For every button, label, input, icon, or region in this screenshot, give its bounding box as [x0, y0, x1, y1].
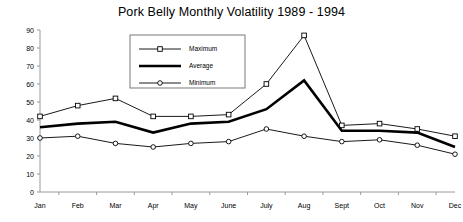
series-marker — [226, 139, 231, 144]
series-marker — [189, 114, 194, 119]
series-marker — [113, 96, 118, 101]
legend-label: Maximum — [189, 45, 217, 52]
x-axis: JanFebMarAprMayJuneJulyAugSeptOctNovDec — [34, 192, 461, 210]
series-line — [40, 129, 455, 154]
data-series — [40, 80, 455, 147]
x-axis-tick-label: June — [221, 202, 236, 209]
legend-label: Average — [189, 62, 213, 70]
series-marker — [113, 141, 118, 146]
y-axis: 0102030405060708090 — [26, 27, 40, 196]
legend-marker — [158, 47, 163, 52]
x-axis-tick-label: Aug — [298, 202, 311, 210]
series-marker — [38, 136, 43, 141]
series-marker — [415, 127, 420, 132]
y-axis-tick-label: 70 — [26, 63, 34, 70]
series-marker — [226, 112, 231, 117]
x-axis-tick-label: Jan — [34, 202, 45, 209]
series-marker — [453, 134, 458, 139]
y-axis-tick-label: 30 — [26, 135, 34, 142]
x-axis-tick-label: Feb — [72, 202, 84, 209]
chart-legend: MaximumAverageMinimum — [130, 35, 245, 88]
x-axis-tick-label: July — [260, 202, 273, 210]
x-axis-tick-label: Dec — [449, 202, 462, 209]
series-marker — [302, 33, 307, 38]
legend-label: Minimum — [189, 79, 215, 86]
y-axis-tick-label: 10 — [26, 171, 34, 178]
x-axis-tick-label: May — [184, 202, 198, 210]
y-axis-tick-label: 80 — [26, 45, 34, 52]
series-marker — [75, 134, 80, 139]
y-axis-tick-label: 0 — [30, 189, 34, 196]
y-axis-tick-label: 60 — [26, 81, 34, 88]
series-marker — [377, 138, 382, 143]
legend-marker — [158, 81, 163, 86]
y-axis-ticks: 0102030405060708090 — [26, 27, 40, 196]
data-series-group — [38, 33, 458, 156]
series-marker — [38, 114, 43, 119]
x-axis-tick-label: Sept — [335, 202, 349, 210]
series-marker — [453, 152, 458, 157]
x-axis-tick-label: Mar — [109, 202, 122, 209]
series-marker — [264, 82, 269, 87]
legend-box — [130, 35, 245, 88]
series-marker — [340, 139, 345, 144]
series-marker — [189, 141, 194, 146]
chart-plot-area: 0102030405060708090 JanFebMarAprMayJuneJ… — [0, 0, 463, 222]
series-line — [40, 80, 455, 147]
series-marker — [264, 127, 269, 132]
chart-container: Pork Belly Monthly Volatility 1989 - 199… — [0, 0, 463, 222]
series-marker — [302, 134, 307, 139]
y-axis-tick-label: 20 — [26, 153, 34, 160]
y-axis-tick-label: 90 — [26, 27, 34, 34]
x-axis-tick-label: Oct — [374, 202, 385, 209]
x-axis-tick-label: Nov — [411, 202, 424, 209]
x-axis-tick-label: Apr — [148, 202, 160, 210]
series-line — [40, 35, 455, 136]
series-marker — [377, 121, 382, 126]
x-axis-labels: JanFebMarAprMayJuneJulyAugSeptOctNovDec — [34, 202, 461, 210]
series-marker — [151, 114, 156, 119]
y-axis-tick-label: 40 — [26, 117, 34, 124]
series-marker — [415, 143, 420, 148]
y-axis-tick-label: 50 — [26, 99, 34, 106]
series-marker — [151, 145, 156, 150]
series-marker — [75, 103, 80, 108]
